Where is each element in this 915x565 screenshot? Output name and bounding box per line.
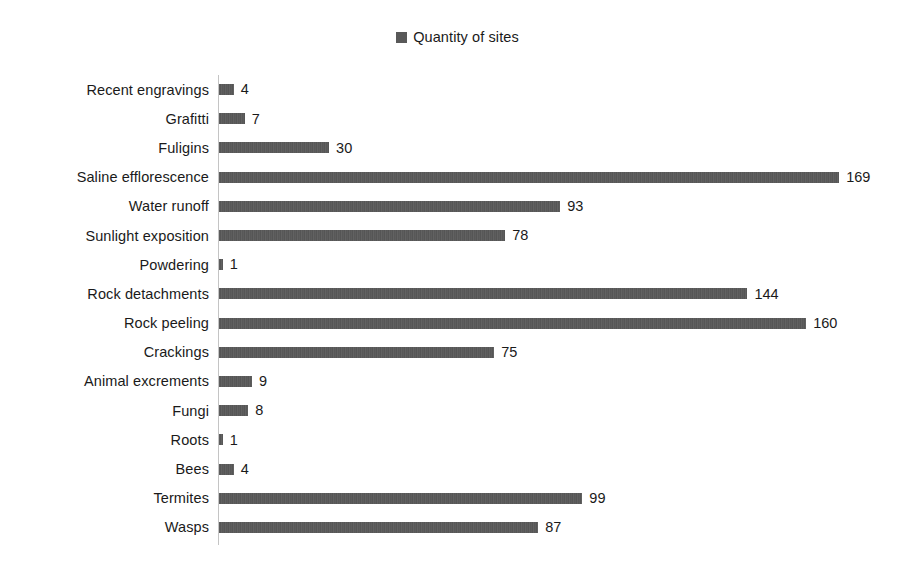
bar-row: Rock detachments144 bbox=[0, 279, 915, 308]
bar-group: 1 bbox=[219, 433, 238, 448]
bar-value-label: 93 bbox=[567, 199, 583, 214]
bar-row: Powdering1 bbox=[0, 250, 915, 279]
bar-row: Wasps87 bbox=[0, 513, 915, 542]
category-label: Bees bbox=[8, 461, 218, 477]
bar-group: 4 bbox=[219, 462, 249, 477]
bar-group: 144 bbox=[219, 287, 779, 302]
bar-group: 169 bbox=[219, 170, 870, 185]
category-label: Water runoff bbox=[8, 198, 218, 214]
bar-row: Water runoff93 bbox=[0, 192, 915, 221]
bar-group: 99 bbox=[219, 491, 605, 506]
bar bbox=[219, 201, 560, 212]
bar-group: 30 bbox=[219, 141, 352, 156]
bar-row: Crackings75 bbox=[0, 338, 915, 367]
category-label: Wasps bbox=[8, 519, 218, 535]
category-label: Saline efflorescence bbox=[8, 169, 218, 185]
bar bbox=[219, 464, 234, 475]
bar bbox=[219, 347, 494, 358]
category-label: Grafitti bbox=[8, 111, 218, 127]
bar-chart: Quantity of sites Recent engravings4Graf… bbox=[0, 0, 915, 565]
legend-label: Quantity of sites bbox=[413, 30, 519, 45]
bar-group: 78 bbox=[219, 228, 528, 243]
bar-group: 1 bbox=[219, 257, 238, 272]
bar-group: 8 bbox=[219, 403, 263, 418]
bar-row: Sunlight exposition78 bbox=[0, 221, 915, 250]
bar-group: 87 bbox=[219, 520, 561, 535]
bar-row: Fuligins30 bbox=[0, 133, 915, 162]
bar-row: Saline efflorescence169 bbox=[0, 163, 915, 192]
bar-row: Grafitti7 bbox=[0, 104, 915, 133]
chart-legend: Quantity of sites bbox=[0, 30, 915, 45]
bar bbox=[219, 493, 582, 504]
bar-value-label: 1 bbox=[230, 433, 238, 448]
bar bbox=[219, 376, 252, 387]
bar-rows: Recent engravings4Grafitti7Fuligins30Sal… bbox=[0, 75, 915, 542]
bar-row: Animal excrements9 bbox=[0, 367, 915, 396]
bar-group: 9 bbox=[219, 374, 267, 389]
bar-value-label: 78 bbox=[512, 228, 528, 243]
category-label: Sunlight exposition bbox=[8, 228, 218, 244]
category-label: Rock detachments bbox=[8, 286, 218, 302]
bar-group: 160 bbox=[219, 316, 837, 331]
bar-value-label: 99 bbox=[589, 491, 605, 506]
bar bbox=[219, 230, 505, 241]
bar bbox=[219, 434, 223, 445]
bar-group: 4 bbox=[219, 82, 249, 97]
bar bbox=[219, 259, 223, 270]
bar bbox=[219, 288, 747, 299]
bar-value-label: 1 bbox=[230, 257, 238, 272]
bar bbox=[219, 172, 839, 183]
bar bbox=[219, 405, 248, 416]
bar-value-label: 4 bbox=[241, 82, 249, 97]
bar bbox=[219, 84, 234, 95]
bar-row: Roots1 bbox=[0, 425, 915, 454]
bar bbox=[219, 522, 538, 533]
bar-row: Bees4 bbox=[0, 454, 915, 483]
category-label: Rock peeling bbox=[8, 315, 218, 331]
bar-value-label: 7 bbox=[252, 112, 260, 127]
category-label: Termites bbox=[8, 490, 218, 506]
category-label: Fungi bbox=[8, 403, 218, 419]
category-label: Fuligins bbox=[8, 140, 218, 156]
legend-swatch-icon bbox=[396, 32, 407, 43]
bar-value-label: 169 bbox=[846, 170, 870, 185]
bar bbox=[219, 142, 329, 153]
bar-group: 7 bbox=[219, 112, 260, 127]
bar bbox=[219, 113, 245, 124]
category-label: Powdering bbox=[8, 257, 218, 273]
category-label: Recent engravings bbox=[8, 82, 218, 98]
bar-value-label: 160 bbox=[813, 316, 837, 331]
bar-row: Rock peeling160 bbox=[0, 309, 915, 338]
bar-value-label: 75 bbox=[501, 345, 517, 360]
bar-group: 93 bbox=[219, 199, 583, 214]
bar-value-label: 8 bbox=[255, 403, 263, 418]
bar-value-label: 87 bbox=[545, 520, 561, 535]
bar-value-label: 9 bbox=[259, 374, 267, 389]
category-label: Roots bbox=[8, 432, 218, 448]
plot-area: Recent engravings4Grafitti7Fuligins30Sal… bbox=[0, 75, 915, 547]
bar-value-label: 30 bbox=[336, 141, 352, 156]
bar-value-label: 4 bbox=[241, 462, 249, 477]
bar-row: Fungi8 bbox=[0, 396, 915, 425]
bar-row: Recent engravings4 bbox=[0, 75, 915, 104]
bar-row: Termites99 bbox=[0, 484, 915, 513]
bar bbox=[219, 318, 806, 329]
category-label: Animal excrements bbox=[8, 373, 218, 389]
bar-value-label: 144 bbox=[754, 287, 778, 302]
bar-group: 75 bbox=[219, 345, 517, 360]
category-label: Crackings bbox=[8, 344, 218, 360]
